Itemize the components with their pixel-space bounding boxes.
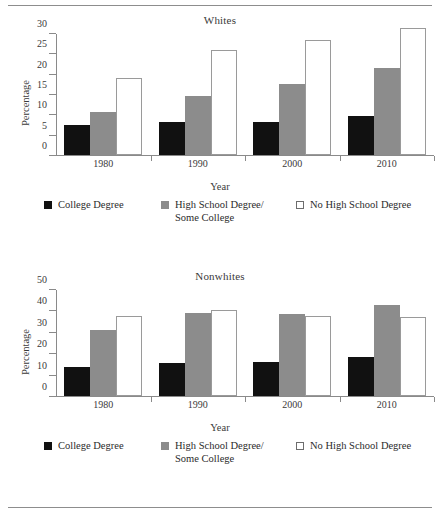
y-tick-label: 0	[42, 140, 47, 151]
bar[interactable]	[305, 40, 331, 155]
y-tick-label: 10	[37, 99, 47, 110]
x-tick-label: 2000	[282, 399, 302, 410]
legend-label-no-high-school-degree: No High School Degree	[310, 439, 411, 452]
y-tick-label: 30	[37, 18, 47, 29]
x-tick-label: 1990	[188, 399, 208, 410]
bar[interactable]	[90, 112, 116, 155]
figure-page: Whites Percentage 051015202530 198019902…	[0, 0, 440, 514]
bar[interactable]	[64, 125, 90, 156]
x-tick-label: 1980	[93, 399, 113, 410]
legend-swatch-college-icon	[44, 201, 52, 209]
legend-label-college-degree: College Degree	[58, 198, 124, 211]
legend-item-no-high-school-degree[interactable]: No High School Degree	[296, 198, 440, 211]
x-tick	[434, 397, 435, 402]
bar[interactable]	[348, 116, 374, 155]
chart-panel-whites: Whites Percentage 051015202530 198019902…	[0, 12, 440, 260]
y-tick	[49, 135, 56, 136]
bar[interactable]	[374, 305, 400, 396]
top-rule	[8, 5, 432, 6]
bar[interactable]	[211, 50, 237, 155]
bar-group	[151, 289, 246, 396]
plot-area-nonwhites: Percentage 01020304050 1980199020002010	[0, 284, 440, 419]
bar[interactable]	[116, 78, 142, 155]
axis-whites: 051015202530	[56, 34, 434, 156]
y-tick-label: 20	[37, 58, 47, 69]
bar[interactable]	[279, 314, 305, 396]
bar[interactable]	[159, 363, 185, 396]
x-tick-label: 2010	[377, 158, 397, 169]
y-tick	[49, 74, 56, 75]
chart-title-whites: Whites	[0, 12, 440, 28]
y-tick	[49, 310, 56, 311]
y-tick-label: 20	[37, 338, 47, 349]
x-tick-label: 1980	[93, 158, 113, 169]
legend-swatch-nohs-icon	[296, 442, 304, 450]
x-tick-label: 2000	[282, 158, 302, 169]
y-tick	[49, 114, 56, 115]
bar[interactable]	[400, 28, 426, 155]
x-tick	[434, 156, 435, 161]
bar[interactable]	[400, 317, 426, 396]
chart-panel-nonwhites: Nonwhites Percentage 01020304050 1980199…	[0, 268, 440, 508]
legend-label-high-school-degree: High School Degree/ Some College	[175, 198, 264, 224]
y-tick	[49, 332, 56, 333]
legend-label-high-school-degree: High School Degree/ Some College	[175, 439, 264, 465]
legend-item-no-high-school-degree[interactable]: No High School Degree	[296, 439, 440, 452]
bar[interactable]	[374, 68, 400, 155]
bar[interactable]	[253, 362, 279, 396]
x-axis-title-whites: Year	[0, 180, 440, 194]
bar[interactable]	[159, 122, 185, 155]
bar[interactable]	[211, 310, 237, 396]
y-tick-label: 25	[37, 38, 47, 49]
legend-label-college-degree: College Degree	[58, 439, 124, 452]
bar[interactable]	[185, 96, 211, 155]
y-tick	[49, 33, 56, 34]
y-tick-label: 10	[37, 359, 47, 370]
legend-item-high-school-degree[interactable]: High School Degree/ Some College	[161, 439, 296, 465]
y-tick-label: 15	[37, 79, 47, 90]
y-tick	[49, 289, 56, 290]
bar-group	[56, 33, 151, 155]
bar[interactable]	[90, 330, 116, 396]
bar[interactable]	[253, 122, 279, 155]
y-tick	[49, 353, 56, 354]
x-tick-labels-whites: 1980199020002010	[56, 158, 434, 172]
y-tick	[49, 53, 56, 54]
legend-swatch-highschool-icon	[161, 442, 169, 450]
y-tick-label: 0	[42, 381, 47, 392]
legend-label-no-high-school-degree: No High School Degree	[310, 198, 411, 211]
y-tick	[49, 155, 56, 156]
bar-group	[245, 33, 340, 155]
legend-nonwhites: College Degree High School Degree/ Some …	[0, 439, 440, 465]
legend-swatch-nohs-icon	[296, 201, 304, 209]
legend-item-college-degree[interactable]: College Degree	[44, 198, 161, 211]
legend-item-high-school-degree[interactable]: High School Degree/ Some College	[161, 198, 296, 224]
chart-title-nonwhites: Nonwhites	[0, 268, 440, 284]
x-axis-title-nonwhites: Year	[0, 421, 440, 435]
y-axis-label-nonwhites: Percentage	[20, 328, 31, 374]
legend-whites: College Degree High School Degree/ Some …	[0, 198, 440, 224]
bar-group	[340, 33, 435, 155]
bar[interactable]	[279, 84, 305, 155]
bar[interactable]	[305, 316, 331, 396]
bar[interactable]	[348, 357, 374, 396]
bar[interactable]	[116, 316, 142, 396]
x-tick-label: 2010	[377, 399, 397, 410]
x-tick-label: 1990	[188, 158, 208, 169]
bar-group	[56, 289, 151, 396]
axis-nonwhites: 01020304050	[56, 290, 434, 397]
legend-item-college-degree[interactable]: College Degree	[44, 439, 161, 452]
bar[interactable]	[64, 367, 90, 396]
legend-swatch-college-icon	[44, 442, 52, 450]
y-tick-label: 40	[37, 295, 47, 306]
x-tick-labels-nonwhites: 1980199020002010	[56, 399, 434, 413]
bar-group	[245, 289, 340, 396]
legend-swatch-highschool-icon	[161, 201, 169, 209]
bar-group	[151, 33, 246, 155]
bar[interactable]	[185, 313, 211, 396]
y-tick-label: 50	[37, 274, 47, 285]
y-axis-label-whites: Percentage	[20, 80, 31, 126]
y-tick-label: 5	[42, 119, 47, 130]
y-tick	[49, 94, 56, 95]
y-tick-label: 30	[37, 316, 47, 327]
